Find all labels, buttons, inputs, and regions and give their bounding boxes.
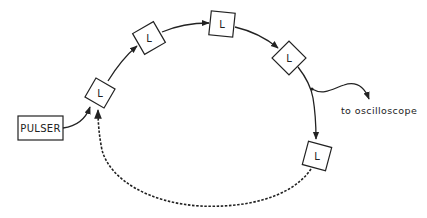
arrow-l3-to-l4 <box>235 27 278 48</box>
ring-diagram: PULSER L L L L to oscilloscope L <box>0 0 427 218</box>
l5-label: L <box>314 151 320 162</box>
l3-label: L <box>219 19 225 30</box>
l1-label: L <box>97 88 103 99</box>
delay-element-l5: L <box>302 141 331 170</box>
l2-label: L <box>146 33 152 44</box>
delay-element-l3: L <box>209 11 235 37</box>
tap-to-oscilloscope <box>312 84 369 99</box>
pulser-label: PULSER <box>20 123 60 134</box>
arrow-pulser-to-l1 <box>63 107 90 128</box>
arrow-l4-to-l5 <box>298 67 316 139</box>
delay-element-l2: L <box>133 22 166 55</box>
oscilloscope-label: to oscilloscope <box>341 105 417 116</box>
arrow-l1-to-l2 <box>108 46 137 81</box>
arrow-l2-to-l3 <box>162 23 209 32</box>
l4-label: L <box>286 53 292 64</box>
dashed-return-path <box>98 110 311 206</box>
delay-element-l1: L <box>85 78 115 108</box>
pulser-box: PULSER <box>18 116 63 140</box>
